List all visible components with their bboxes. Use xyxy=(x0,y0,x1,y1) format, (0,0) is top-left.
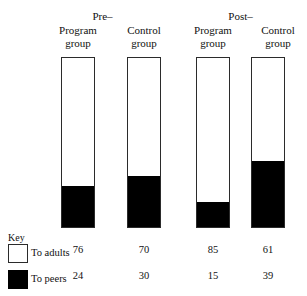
column-header-2-line2: group xyxy=(106,37,182,50)
bar-column-2-peers-segment xyxy=(128,176,160,227)
column-header-4-line2: group xyxy=(240,37,307,50)
value-adults-column-4: 61 xyxy=(251,244,285,256)
value-adults-column-2: 70 xyxy=(127,244,161,256)
bar-column-3-peers-segment xyxy=(197,202,229,227)
group-label-post: Post– xyxy=(196,10,285,22)
legend: Key To adults To peers xyxy=(8,232,108,292)
value-peers-column-2: 30 xyxy=(127,270,161,282)
value-peers-column-4: 39 xyxy=(251,270,285,282)
group-label-pre-text: Pre– xyxy=(92,10,112,22)
legend-swatch-to-peers xyxy=(8,270,28,289)
column-header-1-line1: Program xyxy=(40,24,116,37)
column-header-4-line1: Control xyxy=(240,24,307,37)
value-adults-column-3: 85 xyxy=(196,244,230,256)
bar-column-1 xyxy=(61,57,95,228)
legend-title: Key xyxy=(8,232,25,243)
column-header-2: Control group xyxy=(106,24,182,49)
column-header-2-line1: Control xyxy=(106,24,182,37)
bar-column-2 xyxy=(127,57,161,228)
bar-column-3 xyxy=(196,57,230,228)
column-header-4: Control group xyxy=(240,24,307,49)
value-adults-column-1: 76 xyxy=(61,244,95,256)
legend-swatch-to-adults xyxy=(8,244,28,263)
bar-column-1-peers-segment xyxy=(62,186,94,227)
column-header-1: Program group xyxy=(40,24,116,49)
group-label-pre: Pre– xyxy=(61,10,144,22)
chart-canvas: Pre– Post– Program group Control group P… xyxy=(0,0,307,296)
group-label-post-text: Post– xyxy=(228,10,252,22)
bar-column-4-peers-segment xyxy=(252,161,284,227)
value-peers-column-3: 15 xyxy=(196,270,230,282)
bar-column-4 xyxy=(251,57,285,228)
value-peers-column-1: 24 xyxy=(61,270,95,282)
column-header-1-line2: group xyxy=(40,37,116,50)
